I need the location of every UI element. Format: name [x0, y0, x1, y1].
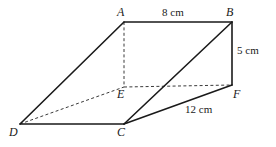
vertex-label-A: A: [117, 6, 124, 18]
geometry-figure: A B C D E F 8 cm 5 cm 12 cm: [0, 0, 276, 147]
figure-canvas: [0, 0, 276, 147]
vertex-label-B: B: [226, 6, 233, 18]
vertex-label-E: E: [117, 88, 124, 100]
vertex-label-C: C: [117, 126, 125, 138]
edge-D-E-dashed: [20, 87, 124, 124]
measurement-label-cf: 12 cm: [185, 104, 212, 115]
vertex-label-F: F: [233, 88, 240, 100]
edge-C-F-solid: [124, 85, 232, 124]
edge-E-F-dashed: [124, 85, 232, 87]
edge-A-D-solid: [20, 22, 124, 124]
measurement-label-ab: 8 cm: [162, 7, 184, 18]
edge-B-C-solid: [124, 22, 232, 124]
vertex-label-D: D: [9, 126, 18, 138]
measurement-label-bf: 5 cm: [237, 45, 259, 56]
